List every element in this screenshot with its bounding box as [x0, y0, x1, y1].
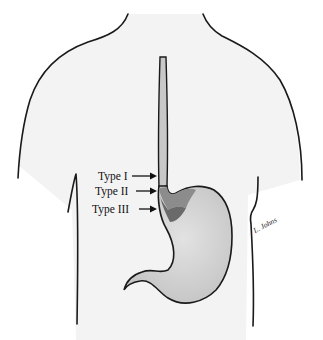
- label-type-iii: Type III: [92, 203, 129, 215]
- label-type-ii: Type II: [95, 185, 128, 197]
- esophagus: [159, 57, 168, 188]
- label-type-i: Type I: [98, 170, 128, 182]
- hiatal-hernia-diagram: [0, 0, 323, 340]
- right-arm-inner-outline: [250, 177, 258, 326]
